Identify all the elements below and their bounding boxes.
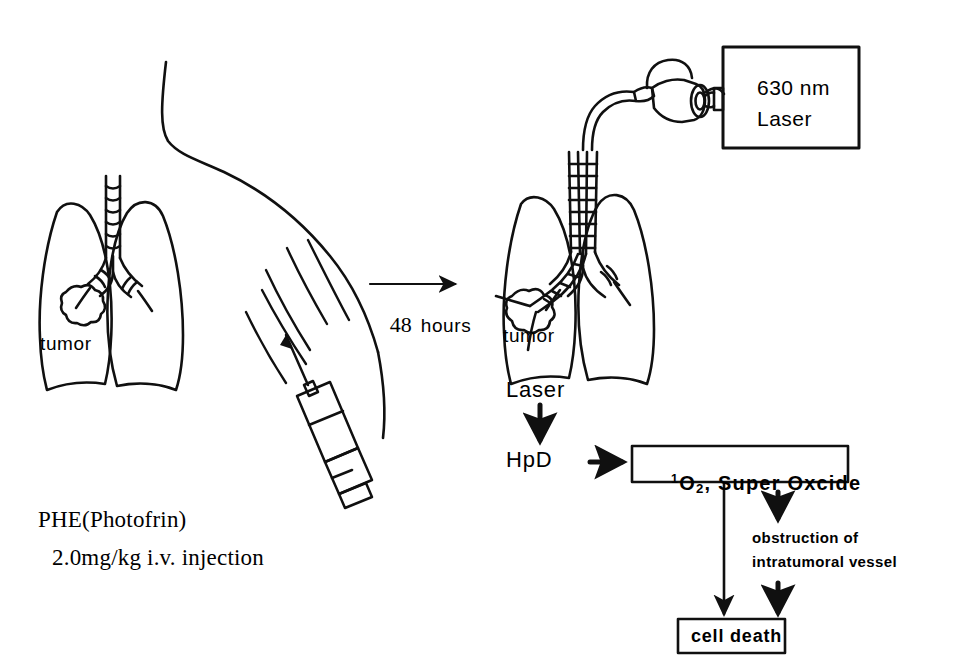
ros-superscript: 1 xyxy=(671,472,679,486)
cell-death-label: cell death xyxy=(691,627,782,645)
patient-body-outline xyxy=(162,62,384,438)
obstruction-line-1: obstruction of xyxy=(752,530,858,545)
time-arrow-value: 48 xyxy=(390,312,412,337)
ros-box-label: 1O2, Super Oxcide xyxy=(644,453,861,515)
diagram-canvas: tumor 48hours tumor 630 nm Laser PHE(Pho… xyxy=(0,0,977,672)
flow-laser-label: Laser xyxy=(506,379,565,401)
drug-dose-label: 2.0mg/kg i.v. injection xyxy=(52,546,264,569)
ros-element: O xyxy=(679,472,696,494)
flow-hpd-label: HpD xyxy=(506,449,552,471)
ros-rest: , Super Oxcide xyxy=(704,472,861,494)
left-lung-figure xyxy=(40,176,183,390)
left-tumor-label: tumor xyxy=(40,334,92,353)
laser-box-title: Laser xyxy=(757,108,812,129)
right-tumor-label: tumor xyxy=(503,326,555,345)
syringe xyxy=(280,335,372,508)
time-arrow-label: 48hours xyxy=(372,298,471,352)
obstruction-line-2: intratumoral vessel xyxy=(752,554,897,569)
bronchoscope xyxy=(583,60,724,150)
time-arrow-unit: hours xyxy=(421,315,472,336)
diagram-artwork xyxy=(0,0,977,672)
laser-box-wavelength: 630 nm xyxy=(757,77,830,98)
right-lung-figure xyxy=(496,152,654,384)
drug-name-label: PHE(Photofrin) xyxy=(38,508,186,531)
